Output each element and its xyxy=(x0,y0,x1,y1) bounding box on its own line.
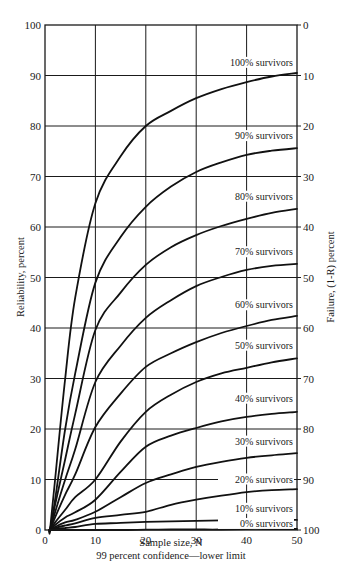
curve-label: 40% survivors xyxy=(235,393,293,404)
curve-label: 0% survivors xyxy=(240,518,293,529)
y-tick-label: 30 xyxy=(30,373,42,385)
x-axis-title: Sample size, N xyxy=(139,537,203,548)
x-tick-label: 10 xyxy=(90,534,102,546)
y-tick-label: 50 xyxy=(30,272,42,284)
curve-label: 90% survivors xyxy=(235,130,293,141)
y2-tick-label: 100 xyxy=(303,524,320,536)
x-tick-label: 0 xyxy=(42,534,48,546)
y-tick-label: 80 xyxy=(30,120,42,132)
chart-subtitle: 99 percent confidence—lower limit xyxy=(96,550,246,561)
y-tick-label: 70 xyxy=(30,171,42,183)
y-tick-label: 100 xyxy=(25,19,42,31)
y-axis-title: Reliability, percent xyxy=(15,237,26,317)
y2-tick-label: 50 xyxy=(303,272,315,284)
y-tick-label: 60 xyxy=(30,221,42,233)
y2-tick-label: 70 xyxy=(303,373,315,385)
curve-label: 10% survivors xyxy=(235,503,293,514)
y-tick-label: 0 xyxy=(36,524,42,536)
y2-axis-title: Failure, (1-R) percent xyxy=(325,231,337,322)
curve-label: 50% survivors xyxy=(235,340,293,351)
y-tick-label: 10 xyxy=(30,474,42,486)
y2-tick-label: 0 xyxy=(303,19,309,31)
y-tick-label: 40 xyxy=(30,322,42,334)
x-tick-label: 40 xyxy=(241,534,253,546)
reliability-chart: 100% survivors90% survivors80% survivors… xyxy=(0,0,340,586)
curve-label: 30% survivors xyxy=(235,436,293,447)
y2-tick-label: 20 xyxy=(303,120,315,132)
y2-tick-label: 60 xyxy=(303,322,315,334)
y2-tick-label: 90 xyxy=(303,474,315,486)
curve-label: 80% survivors xyxy=(235,191,293,202)
y-tick-label: 90 xyxy=(30,70,42,82)
y2-tick-label: 30 xyxy=(303,171,315,183)
x-tick-label: 50 xyxy=(292,534,304,546)
y2-tick-label: 10 xyxy=(303,70,315,82)
curve-label: 20% survivors xyxy=(235,474,293,485)
curve-label: 70% survivors xyxy=(235,246,293,257)
y2-tick-label: 40 xyxy=(303,221,315,233)
curve-labels: 100% survivors90% survivors80% survivors… xyxy=(218,57,294,529)
curve-label: 60% survivors xyxy=(235,299,293,310)
curve-label: 100% survivors xyxy=(230,57,293,68)
y-tick-label: 20 xyxy=(30,423,42,435)
y2-tick-label: 80 xyxy=(303,423,315,435)
